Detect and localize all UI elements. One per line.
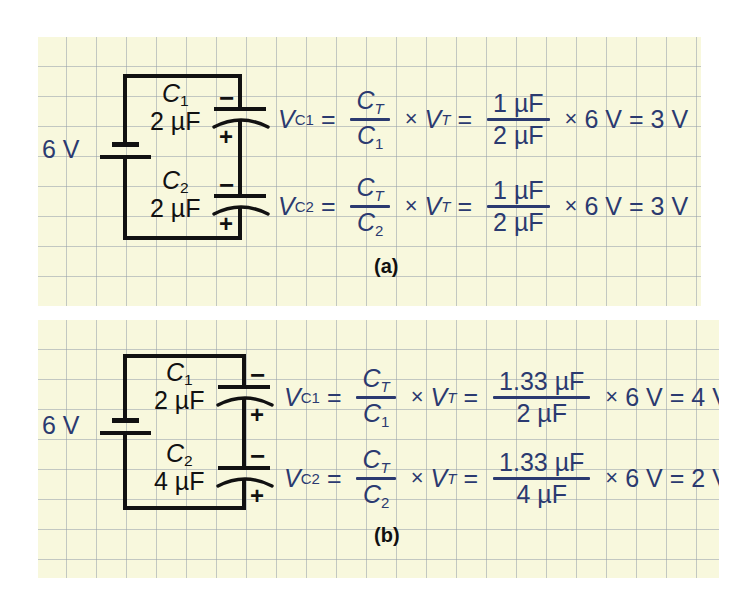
wire-bottom-b: [123, 506, 246, 510]
capacitor-c1-plus-sign-a: +: [219, 125, 233, 149]
capacitor-c1-name-letter-a: C: [162, 79, 180, 107]
capacitor-c1-name-a: C1: [162, 79, 189, 110]
wire-right-mid-a: [238, 121, 242, 195]
eq-b1-frac1-num-letter: C: [362, 364, 380, 392]
eq-a2-source-voltage: 6 V: [584, 192, 622, 221]
eq-b2-vt-sub: T: [447, 470, 456, 487]
eq-b2-equals-2: =: [463, 464, 478, 493]
eq-b1-times-1: ×: [411, 384, 424, 410]
eq-a1-equals-1: =: [321, 105, 336, 134]
eq-a1-frac1-num: CT: [350, 87, 389, 118]
capacitor-plate-curved-c2-b: [216, 472, 274, 488]
eq-a1-result: 3 V: [651, 105, 689, 134]
figure-panel-b: 6 V − + C1 2 µF − + C2 4 µF VC1 = CT C1: [38, 320, 719, 578]
capacitor-c1-value-a: 2 µF: [150, 107, 201, 136]
eq-a2-fraction-values: 1 µF 2 µF: [487, 177, 550, 236]
eq-b1-fraction-ct-c1: CT C1: [356, 365, 395, 429]
wire-right-upper-a: [238, 74, 242, 107]
eq-b1-frac1-num: CT: [356, 365, 395, 396]
eq-a2-equals-2: =: [457, 192, 472, 221]
eq-b2-frac1-den: C2: [357, 480, 395, 511]
eq-b1-frac1-den: C1: [357, 399, 395, 430]
eq-a1-frac1-num-sub: T: [375, 100, 384, 117]
eq-a2-times-1: ×: [405, 193, 418, 219]
eq-b2-result: 2 V: [691, 464, 719, 493]
eq-b1-frac1-den-letter: C: [363, 399, 381, 427]
eq-a2-frac1-num-letter: C: [356, 173, 374, 201]
eq-a2-vt-sub: T: [441, 198, 450, 215]
eq-b1-lhs-sub: C1: [301, 389, 320, 406]
battery-short-plate-b: [112, 418, 139, 423]
eq-b2-frac2-num: 1.33 µF: [493, 449, 590, 477]
capacitor-c1-minus-sign-a: −: [219, 85, 234, 111]
eq-b1-vt-sub: T: [447, 389, 456, 406]
eq-a1-lhs-sub: C1: [295, 111, 314, 128]
wire-right-upper-b: [242, 354, 246, 385]
eq-a2-times-2: ×: [565, 193, 578, 219]
capacitor-c1-value-b: 2 µF: [154, 386, 205, 415]
eq-a2-fraction-ct-c2: CT C2: [350, 174, 389, 238]
eq-b1-source-voltage: 6 V: [625, 383, 663, 412]
eq-a2-equals-3: =: [629, 192, 644, 221]
capacitor-c1-plus-sign-b: +: [250, 403, 264, 427]
capacitor-c2-minus-sign-b: −: [250, 443, 265, 469]
eq-b2-lhs-sub: C2: [301, 470, 320, 487]
battery-short-plate-a: [112, 142, 139, 147]
wire-right-mid-b: [242, 399, 246, 467]
eq-b1-frac2-num: 1.33 µF: [493, 368, 590, 396]
eq-b2-frac1-num-sub: T: [381, 459, 390, 476]
battery-long-plate-a: [100, 155, 151, 159]
eq-a2-result: 3 V: [651, 192, 689, 221]
eq-a1-vt: V: [425, 105, 442, 134]
eq-b1-frac1-num-sub: T: [381, 378, 390, 395]
eq-b1-equals-1: =: [327, 383, 342, 412]
wire-left-upper-b: [123, 354, 127, 418]
capacitor-c2-name-a: C2: [162, 166, 189, 197]
eq-b2-vt: V: [431, 464, 448, 493]
wire-left-lower-b: [123, 433, 127, 510]
eq-a1-vt-sub: T: [441, 111, 450, 128]
capacitor-c2-plus-sign-b: +: [250, 484, 264, 508]
eq-b2-frac1-num-letter: C: [362, 445, 380, 473]
capacitor-c1-name-letter-b: C: [166, 358, 184, 386]
capacitor-c2-name-letter-a: C: [162, 166, 180, 194]
eq-a1-frac1-den: C1: [351, 121, 389, 152]
equation-vc2-a: VC2 = CT C2 × VT = 1 µF 2 µF × 6 V = 3 V: [278, 174, 688, 238]
equation-vc2-b: VC2 = CT C2 × VT = 1.33 µF 4 µF × 6 V = …: [284, 446, 719, 510]
eq-b1-equals-2: =: [463, 383, 478, 412]
eq-b1-fraction-values: 1.33 µF 2 µF: [493, 368, 590, 427]
eq-b2-frac1-num: CT: [356, 446, 395, 477]
capacitor-c2-minus-sign-a: −: [219, 172, 234, 198]
eq-a1-times-2: ×: [565, 106, 578, 132]
capacitor-c2-plus-sign-a: +: [219, 212, 233, 236]
eq-b1-lhs: V: [284, 383, 301, 412]
eq-a2-lhs-sub: C2: [295, 198, 314, 215]
capacitor-plate-curved-c1-b: [216, 391, 274, 407]
eq-a1-frac2-num: 1 µF: [487, 90, 550, 118]
capacitor-c1-name-b: C1: [166, 358, 193, 389]
eq-b2-times-1: ×: [411, 465, 424, 491]
eq-b1-frac1-den-sub: 1: [381, 412, 389, 429]
eq-b2-source-voltage: 6 V: [625, 464, 663, 493]
eq-a2-vt: V: [425, 192, 442, 221]
source-voltage-label-a: 6 V: [42, 135, 80, 164]
eq-a1-fraction-ct-c1: CT C1: [350, 87, 389, 151]
eq-a1-frac1-den-sub: 1: [375, 134, 383, 151]
wire-top-a: [123, 74, 242, 78]
eq-a2-frac1-den-letter: C: [357, 208, 375, 236]
eq-b1-vt: V: [431, 383, 448, 412]
eq-b2-fraction-values: 1.33 µF 4 µF: [493, 449, 590, 508]
capacitor-c1-minus-sign-b: −: [250, 362, 265, 388]
eq-a1-times-1: ×: [405, 106, 418, 132]
eq-a2-frac1-den-sub: 2: [375, 221, 383, 238]
eq-a1-equals-2: =: [457, 105, 472, 134]
eq-a2-frac1-num-sub: T: [375, 187, 384, 204]
eq-a1-source-voltage: 6 V: [584, 105, 622, 134]
eq-b1-frac2-den: 2 µF: [510, 399, 573, 427]
wire-left-lower-a: [123, 157, 127, 240]
eq-b2-equals-3: =: [670, 464, 685, 493]
eq-b1-equals-3: =: [670, 383, 685, 412]
source-voltage-label-b: 6 V: [42, 411, 80, 440]
eq-b2-lhs: V: [284, 464, 301, 493]
eq-b2-times-2: ×: [605, 465, 618, 491]
